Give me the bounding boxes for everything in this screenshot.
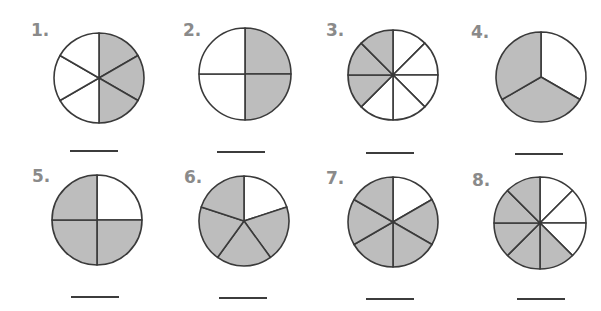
fraction-circle [494,30,588,124]
problem-number: 3. [326,20,344,40]
answer-blank-line[interactable] [366,298,414,300]
fraction-circle [52,31,146,125]
problem-number: 4. [471,22,489,42]
shaded-sector [245,28,291,74]
problem-number: 7. [326,168,344,188]
unshaded-sector [199,74,245,120]
answer-blank-line[interactable] [70,150,118,152]
fraction-circle [346,175,440,269]
answer-blank-line[interactable] [217,151,265,153]
unshaded-sector [97,175,142,220]
answer-blank-line[interactable] [366,152,414,154]
answer-blank-line[interactable] [517,298,565,300]
problem-number: 1. [31,20,49,40]
answer-blank-line[interactable] [71,296,119,298]
shaded-sector [97,220,142,265]
shaded-sector [52,175,97,220]
shaded-sector [245,74,291,120]
shaded-sector [52,220,97,265]
answer-blank-line[interactable] [515,153,563,155]
fraction-circle [492,175,588,271]
problem-number: 5. [32,166,50,186]
unshaded-sector [199,28,245,74]
fraction-circle [197,26,293,122]
problem-number: 8. [472,170,490,190]
fraction-circle [197,174,291,268]
answer-blank-line[interactable] [219,297,267,299]
fraction-circle [50,173,144,267]
fraction-circle [346,28,440,122]
